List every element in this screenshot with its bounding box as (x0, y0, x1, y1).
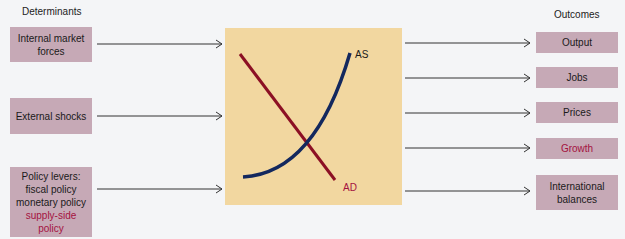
outcome-prices: Prices (536, 102, 618, 123)
box-label: Growth (561, 142, 593, 155)
box-line: balances (549, 193, 604, 206)
box-label: Jobs (566, 71, 587, 84)
outcome-international-balances: Internationalbalances (536, 175, 618, 210)
outcome-growth: Growth (536, 138, 618, 159)
box-label: Output (562, 36, 592, 49)
box-line: International (549, 180, 604, 193)
box-label: Prices (563, 106, 591, 119)
connector-arrows (0, 0, 625, 239)
outcome-output: Output (536, 32, 618, 53)
outcome-jobs: Jobs (536, 67, 618, 88)
